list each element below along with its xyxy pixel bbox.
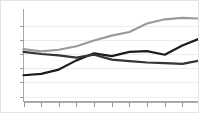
series-line-3 xyxy=(24,52,200,64)
chart-canvas xyxy=(1,1,199,113)
gridlines xyxy=(24,27,200,98)
series-line-1 xyxy=(24,18,200,52)
x-axis-ticks xyxy=(25,102,200,107)
series-line-2 xyxy=(24,38,200,75)
line-chart xyxy=(0,0,199,113)
